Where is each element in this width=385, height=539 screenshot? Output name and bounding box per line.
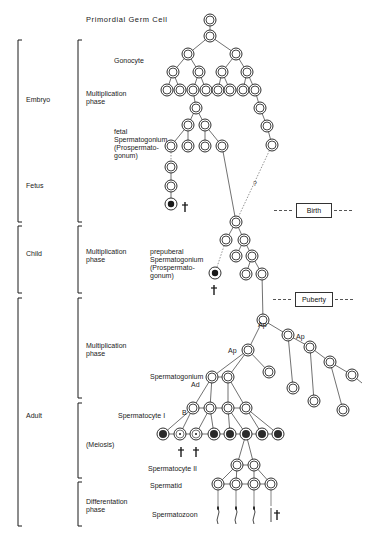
gonocyte-cell	[241, 66, 253, 78]
prepuberal-spermatogonium-cell	[230, 216, 242, 228]
secondary-spermatocyte-cell	[231, 459, 243, 471]
gonocyte-cell	[174, 84, 186, 96]
ap-spermatogonium-cell	[263, 366, 275, 378]
phase-label: Differentation phase	[86, 498, 128, 514]
diagram-title: Primordial Germ Cell	[86, 16, 168, 24]
event-dashed-line	[273, 299, 291, 300]
bracket	[78, 403, 82, 478]
fetal-spermatogonium-cell	[182, 119, 194, 131]
bracket	[78, 226, 82, 293]
cell-stage-label: Spermatozoon	[152, 511, 198, 519]
ap-spermatogonium-cell	[346, 369, 358, 381]
primary-spermatocyte-cell	[272, 428, 284, 440]
gonocyte-cell	[212, 84, 224, 96]
dagger-death-icon	[178, 447, 184, 457]
cell-stage-label: Spermatid	[150, 482, 182, 490]
fetal-spermatogonium-cell	[182, 140, 194, 152]
gonocyte-cell	[230, 48, 242, 60]
period-brackets	[18, 40, 82, 526]
gonocyte-cell	[193, 66, 205, 78]
cell-stage-label: Gonocyte	[114, 57, 144, 65]
cell-stage-label: Ap	[258, 321, 267, 329]
cell-stage-label: Spermatocyte II	[148, 465, 197, 473]
gonocyte-cell	[187, 84, 199, 96]
prepuberal-spermatogonium-cell	[220, 234, 232, 246]
gonocyte-cell	[182, 48, 194, 60]
ap-spermatogonium-cell	[324, 356, 336, 368]
prepuberal-spermatogonium-cell	[256, 268, 268, 280]
dagger-death-icon	[182, 202, 188, 212]
bracket	[78, 298, 82, 398]
phase-label: (Meiosis)	[86, 441, 114, 449]
dagger-death-icon	[274, 510, 280, 520]
spermatid-cell	[265, 478, 277, 490]
cell-stage-label: fetal Spermatogonium (Prospermato- gonum…	[114, 128, 167, 160]
phase-label: Multiplication phase	[86, 342, 126, 358]
bracket	[18, 298, 22, 526]
primordial-germ-cell	[204, 14, 216, 26]
prepuberal-spermatogonium-cell	[240, 268, 252, 280]
age-period-label: Embryo	[26, 96, 50, 104]
prepuberal-spermatogonium-cell	[230, 250, 242, 262]
degenerating-spermatocyte-cell	[174, 428, 186, 440]
primary-spermatocyte-cell	[256, 428, 268, 440]
bracket	[78, 40, 82, 222]
fetal-spermatogonium-cell	[266, 139, 278, 151]
bracket	[18, 40, 22, 222]
fetal-spermatogonium-cell	[199, 119, 211, 131]
b-spermatogonium-cell	[222, 402, 234, 414]
cell-stage-label: Spermatogonium	[150, 373, 203, 381]
age-period-label: Adult	[26, 412, 42, 420]
gonocyte-cell	[237, 84, 249, 96]
degenerating-spermatocyte-cell	[190, 428, 202, 440]
ap-spermatogonium-cell	[242, 344, 254, 356]
b-spermatogonium-cell	[240, 402, 252, 414]
fetal-spermatogonium-cell	[165, 180, 177, 192]
ap-spermatogonium-cell	[282, 329, 294, 341]
gonocyte-cell	[167, 66, 179, 78]
cell-stage-label: Spermatocyte I	[118, 412, 165, 420]
gonocyte-cell	[200, 84, 212, 96]
b-spermatogonium-cell	[187, 402, 199, 414]
primary-spermatocyte-cell	[157, 428, 169, 440]
dagger-death-icon	[193, 447, 199, 457]
spermatid-cell	[230, 478, 242, 490]
fetal-spermatogonium-cell	[254, 102, 266, 114]
primary-spermatocyte-cell	[240, 428, 252, 440]
spermatid-cell	[212, 478, 224, 490]
bracket	[78, 482, 82, 526]
event-box-puberty: Puberty	[295, 292, 333, 307]
phase-label: Multiplication phase	[86, 90, 126, 106]
age-period-label: Fetus	[26, 182, 44, 190]
event-dashed-line	[274, 210, 292, 211]
event-dashed-line	[335, 299, 353, 300]
phase-label: Multiplication phase	[86, 248, 126, 264]
secondary-spermatocyte-cell	[248, 459, 260, 471]
ap-spermatogonium-cell	[287, 382, 299, 394]
cell-stage-label: Ap	[228, 347, 237, 355]
dagger-death-icon	[211, 285, 217, 295]
degenerating-cell	[165, 198, 177, 210]
degenerating-cell	[209, 267, 221, 279]
gonocyte-cell	[224, 84, 236, 96]
fetal-spermatogonium-cell	[199, 140, 211, 152]
fetal-spermatogonium-cell	[216, 140, 228, 152]
fetal-spermatogonium-cell	[190, 102, 202, 114]
ap-spermatogonium-cell	[337, 404, 349, 416]
cell-stage-label: Ap	[296, 333, 305, 341]
fetal-spermatogonium-cell	[165, 161, 177, 173]
prepuberal-spermatogonium-cell	[246, 250, 258, 262]
event-box-birth: Birth	[296, 203, 332, 218]
ap-spermatogonium-cell	[304, 341, 316, 353]
gonocyte-cell	[216, 66, 228, 78]
event-dashed-line	[334, 210, 352, 211]
fetal-spermatogonium-cell	[261, 120, 273, 132]
cell-stage-label: ?	[253, 180, 257, 188]
gonocyte-cell	[249, 84, 261, 96]
ad-spermatogonium-cell	[206, 371, 218, 383]
primary-spermatocyte-cell	[224, 428, 236, 440]
gonocyte-cell	[204, 30, 216, 42]
ap-spermatogonium-cell	[308, 395, 320, 407]
cell-stage-label: Ad	[191, 381, 200, 389]
bracket	[18, 226, 22, 293]
